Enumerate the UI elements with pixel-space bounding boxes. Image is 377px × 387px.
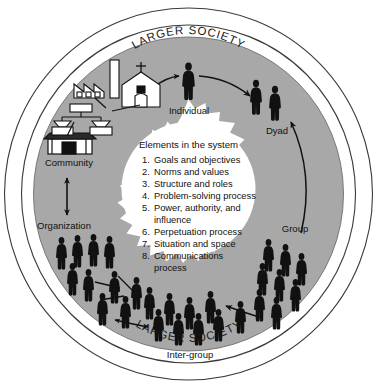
diagram-canvas: LARGER SOCIETY LARGER SOCIETY Elements i… bbox=[0, 0, 377, 387]
center-item-num: 7. bbox=[142, 239, 150, 249]
stage-label-group: Group bbox=[282, 223, 308, 234]
center-item-num: 2. bbox=[142, 167, 150, 177]
center-heading: Elements in the system bbox=[139, 139, 238, 150]
center-item-text: Communications bbox=[154, 251, 224, 261]
center-item-text: influence bbox=[154, 215, 191, 225]
stage-label-individual: Individual bbox=[169, 105, 209, 116]
stage-label-community: Community bbox=[45, 157, 93, 168]
center-item-num: 4. bbox=[142, 191, 150, 201]
civic-building-icon bbox=[44, 133, 96, 154]
center-item-num: 5. bbox=[142, 203, 150, 213]
center-item-text: Norms and values bbox=[154, 167, 229, 177]
stage-label-intergroup: Inter-group bbox=[167, 349, 213, 360]
stage-label-organization: Organization bbox=[37, 220, 91, 231]
center-item-text: Power, authority, and bbox=[154, 203, 241, 213]
center-item-num: 6. bbox=[142, 227, 150, 237]
center-item-num: 8. bbox=[142, 251, 150, 261]
center-item-text: Problem-solving process bbox=[154, 191, 256, 201]
stage-label-dyad: Dyad bbox=[266, 125, 288, 136]
center-item-text: Goals and objectives bbox=[154, 155, 241, 165]
center-item-text: Perpetuation process bbox=[154, 227, 242, 237]
center-item-num: 3. bbox=[142, 179, 150, 189]
center-item-num: 1. bbox=[142, 155, 150, 165]
center-item-text: process bbox=[154, 263, 187, 273]
center-item-text: Situation and space bbox=[154, 239, 236, 249]
center-item-text: Structure and roles bbox=[154, 179, 233, 189]
